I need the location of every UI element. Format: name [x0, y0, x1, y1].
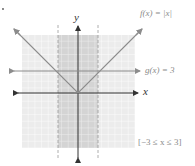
f-arrow-right [136, 29, 142, 35]
y-axis-label: y [74, 12, 79, 23]
f-arrow-left [14, 29, 20, 35]
f-label: f(x) = |x| [140, 9, 172, 18]
x-axis-label: x [143, 86, 148, 97]
g-label: g(x) = 3 [145, 66, 175, 75]
corner-mark [2, 8, 4, 10]
domain-label: [−3 ≤ x ≤ 3] [138, 138, 181, 147]
